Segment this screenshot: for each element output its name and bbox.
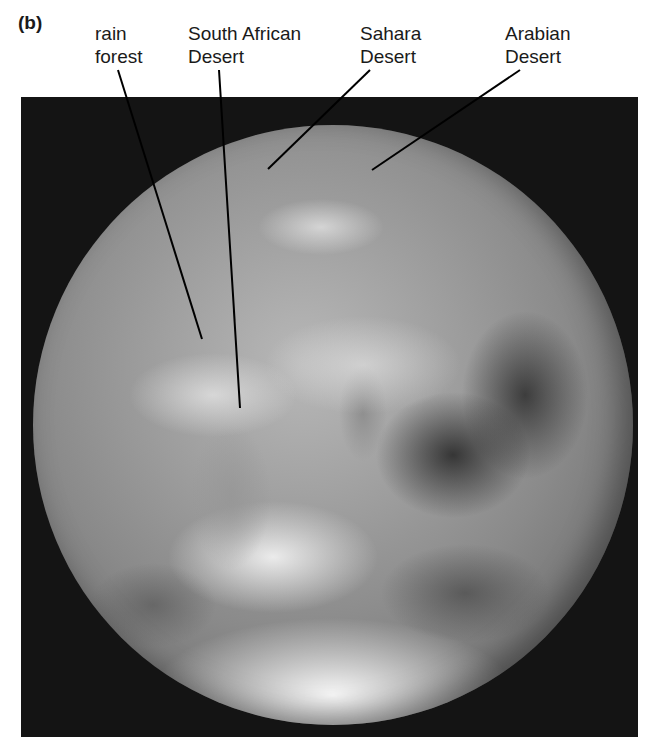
leader-line-rain-forest xyxy=(118,70,202,339)
leader-lines xyxy=(0,0,649,743)
leader-line-sahara-desert xyxy=(268,70,370,169)
leader-line-arabian-desert xyxy=(372,70,520,170)
leader-line-south-african-desert xyxy=(219,70,240,408)
